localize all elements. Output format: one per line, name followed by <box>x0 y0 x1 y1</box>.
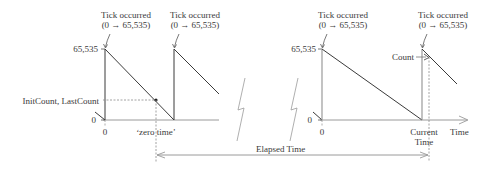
tick-label-line2: (0 → 65,535) <box>313 20 373 30</box>
tick-label-line1: Tick occurred <box>413 10 473 20</box>
zero-time-label: ‘zero time’ <box>126 127 186 137</box>
tick-label-1: Tick occurred (0 → 65,535) <box>96 10 156 30</box>
tick-label-line2: (0 → 65,535) <box>165 20 225 30</box>
left-y-zero-label: 0 <box>80 115 96 125</box>
axis-break-icon <box>237 78 245 141</box>
right-y-zero-label: 0 <box>296 115 312 125</box>
tick-label-4: Tick occurred (0 → 65,535) <box>413 10 473 30</box>
current-time-line2: Time <box>402 137 446 147</box>
left-panel <box>95 34 219 162</box>
current-time-label: Current Time <box>402 127 446 147</box>
tick-label-3: Tick occurred (0 → 65,535) <box>313 10 373 30</box>
left-x-zero-label: 0 <box>99 127 111 137</box>
right-incoming-slope <box>313 112 322 120</box>
tick-label-line2: (0 → 65,535) <box>413 20 473 30</box>
current-time-line1: Current <box>402 127 446 137</box>
tick-label-2: Tick occurred (0 → 65,535) <box>165 10 225 30</box>
right-y-max-label: 65,535 <box>278 44 316 54</box>
tick-label-line1: Tick occurred <box>313 10 373 20</box>
tick-label-line1: Tick occurred <box>96 10 156 20</box>
left-y-max-label: 65,535 <box>60 44 98 54</box>
tick-label-line1: Tick occurred <box>165 10 225 20</box>
x-axis-time-label: Time <box>450 127 469 137</box>
elapsed-time-label: Elapsed Time <box>256 144 305 154</box>
tick-label-line2: (0 → 65,535) <box>96 20 156 30</box>
right-x-zero-label: 0 <box>316 127 328 137</box>
init-count-label: InitCount, LastCount <box>10 96 99 106</box>
left-incoming-slope <box>95 112 105 120</box>
axis-break-icon <box>290 78 298 141</box>
count-label: Count <box>380 52 414 62</box>
left-sawtooth <box>105 49 219 120</box>
